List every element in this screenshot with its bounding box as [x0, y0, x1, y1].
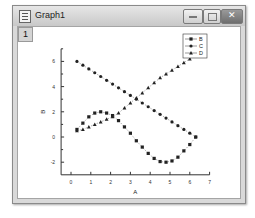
marker-square: [170, 159, 173, 162]
marker-square: [182, 149, 185, 152]
marker-triangle: [170, 68, 174, 72]
title-bar[interactable]: Graph1: [13, 6, 245, 26]
marker-circle: [129, 94, 132, 97]
marker-square: [176, 156, 179, 159]
y-tick-label: 4: [52, 84, 55, 90]
marker-triangle: [182, 61, 186, 65]
x-tick-label: 2: [109, 179, 112, 185]
marker-triangle: [134, 96, 138, 100]
marker-circle: [188, 132, 191, 135]
marker-circle: [147, 105, 150, 108]
x-tick-label: 6: [188, 179, 191, 185]
marker-circle: [123, 90, 126, 93]
marker-square: [129, 132, 132, 135]
legend-label-B: B: [199, 36, 203, 42]
marker-triangle: [164, 72, 168, 76]
marker-square: [81, 122, 84, 125]
y-tick-label: -2: [51, 159, 56, 165]
close-button[interactable]: [221, 9, 243, 24]
marker-triangle: [93, 122, 97, 126]
marker-triangle: [146, 86, 150, 90]
graph-canvas[interactable]: 1 -2024601234567ABBCD: [17, 26, 241, 199]
marker-square: [135, 139, 138, 142]
marker-square: [87, 115, 90, 118]
x-tick-label: 4: [149, 179, 152, 185]
marker-square: [141, 145, 144, 148]
marker-triangle: [117, 111, 121, 115]
y-axis-title: B: [40, 110, 46, 114]
marker-square: [123, 125, 126, 128]
marker-square: [189, 37, 192, 40]
marker-circle: [99, 75, 102, 78]
x-tick-label: 0: [70, 179, 73, 185]
marker-square: [159, 160, 162, 163]
marker-circle: [189, 44, 192, 47]
legend-label-D: D: [199, 50, 203, 56]
x-axis-title: A: [133, 189, 137, 195]
marker-circle: [141, 101, 144, 104]
marker-circle: [170, 120, 173, 123]
marker-circle: [176, 124, 179, 127]
x-tick-label: 1: [89, 179, 92, 185]
marker-circle: [194, 135, 197, 138]
y-tick-label: 0: [52, 134, 55, 140]
marker-square: [153, 157, 156, 160]
marker-square: [147, 152, 150, 155]
y-tick-label: 2: [52, 109, 55, 115]
marker-square: [117, 119, 120, 122]
x-tick-label: 7: [208, 179, 211, 185]
legend-label-C: C: [199, 43, 203, 49]
series-line-B: [77, 112, 196, 162]
marker-triangle: [87, 125, 91, 129]
marker-circle: [182, 128, 185, 131]
minimize-button[interactable]: [183, 9, 203, 24]
graph-window: Graph1 1 -2024601234567ABBCD: [12, 5, 246, 204]
marker-circle: [105, 79, 108, 82]
marker-circle: [93, 71, 96, 74]
marker-circle: [87, 67, 90, 70]
marker-square: [93, 111, 96, 114]
marker-triangle: [176, 64, 180, 68]
marker-triangle: [158, 76, 162, 80]
marker-triangle: [99, 120, 103, 124]
y-tick-label: 6: [52, 58, 55, 64]
marker-square: [99, 110, 102, 113]
marker-circle: [159, 113, 162, 116]
marker-square: [164, 161, 167, 164]
x-tick-label: 5: [169, 179, 172, 185]
marker-triangle: [129, 101, 133, 105]
x-tick-label: 3: [129, 179, 132, 185]
graph-window-icon: [19, 10, 31, 23]
marker-circle: [153, 109, 156, 112]
marker-circle: [164, 117, 167, 120]
plot-area: -2024601234567ABBCD: [18, 27, 240, 198]
marker-square: [188, 143, 191, 146]
maximize-button[interactable]: [203, 9, 221, 24]
marker-square: [105, 111, 108, 114]
marker-circle: [111, 82, 114, 85]
marker-circle: [75, 60, 78, 63]
window-title: Graph1: [35, 10, 65, 20]
marker-circle: [81, 64, 84, 67]
marker-circle: [117, 86, 120, 89]
